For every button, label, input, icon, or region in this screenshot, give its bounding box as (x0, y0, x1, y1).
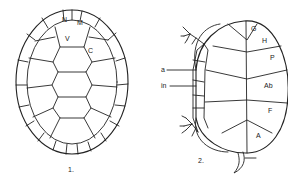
figure2-caption: 2. (198, 157, 204, 164)
turtle-shell-diagram: N M V C 1. (0, 0, 288, 185)
label-axillary: a (161, 66, 165, 73)
label-marginal: M (77, 19, 83, 26)
plastron-figure: G H P Ab F A a in 2. (161, 21, 288, 173)
label-anal: A (256, 132, 261, 139)
label-femoral: F (268, 107, 272, 114)
label-vertebral: V (65, 35, 70, 42)
label-gular: G (251, 25, 256, 32)
label-humeral: H (262, 37, 267, 44)
label-abdominal: Ab (264, 82, 273, 89)
label-nuchal: N (62, 16, 67, 23)
figure1-caption: 1. (68, 166, 74, 173)
tail-icon (234, 152, 244, 173)
label-costal: C (88, 47, 93, 54)
label-pectoral: P (270, 54, 275, 61)
label-inframarginal: in (161, 82, 167, 89)
carapace-figure: N M V C 1. (16, 10, 128, 173)
